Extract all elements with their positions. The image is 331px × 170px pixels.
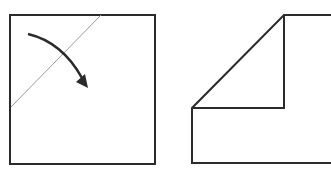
panel-before-fold xyxy=(10,15,155,164)
square-outline xyxy=(10,15,155,164)
panel-after-fold xyxy=(192,15,331,163)
crease-line xyxy=(11,15,101,107)
folded-square-outline xyxy=(192,15,331,163)
fold-diagram xyxy=(0,0,331,170)
curved-arrow-icon xyxy=(28,34,82,78)
